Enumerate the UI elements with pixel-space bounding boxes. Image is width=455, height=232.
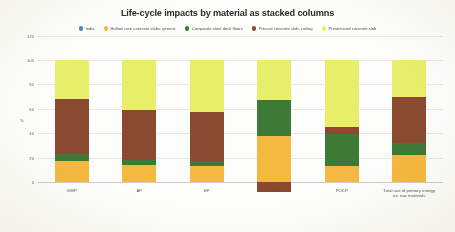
legend-dot-icon bbox=[79, 26, 84, 31]
legend-item-label: Composite steel deck floors bbox=[192, 26, 243, 31]
chart-title: Life-cycle impacts by material as stacke… bbox=[0, 8, 455, 18]
gridline bbox=[38, 109, 443, 110]
bar-segment[interactable] bbox=[190, 60, 224, 112]
legend-item-label: Hollow core concrete slabs, generic bbox=[111, 26, 176, 31]
chart-figure: Life-cycle impacts by material as stacke… bbox=[0, 0, 455, 232]
bar-segment[interactable] bbox=[392, 97, 426, 143]
legend-item[interactable]: India bbox=[79, 26, 95, 31]
y-axis-tick-label: 40 bbox=[29, 131, 34, 136]
gridline bbox=[38, 60, 443, 61]
bar-segment[interactable] bbox=[325, 127, 359, 134]
bar-column[interactable] bbox=[190, 44, 224, 182]
legend-item[interactable]: Precast concrete slab, ceiling bbox=[252, 26, 313, 31]
legend-dot-icon bbox=[185, 26, 190, 31]
bar-segment[interactable] bbox=[55, 60, 89, 99]
bar-segment[interactable] bbox=[55, 154, 89, 161]
legend-dot-icon bbox=[252, 26, 257, 31]
bar-segment[interactable] bbox=[122, 165, 156, 182]
legend-item[interactable]: Composite steel deck floors bbox=[185, 26, 243, 31]
bar-segment[interactable] bbox=[190, 161, 224, 166]
bar-segment[interactable] bbox=[392, 60, 426, 97]
bar-segment[interactable] bbox=[122, 60, 156, 110]
y-axis-tick-label: 20 bbox=[29, 155, 34, 160]
bar-column[interactable] bbox=[325, 44, 359, 182]
plot-area: 120100806040200GWPAPEPODPPOCPTotal use o… bbox=[38, 44, 443, 182]
legend-item[interactable]: Prestressed concrete slab bbox=[322, 26, 377, 31]
legend-item-label: Prestressed concrete slab bbox=[329, 26, 377, 31]
y-axis-tick-label: 0 bbox=[32, 180, 34, 185]
bar-segment[interactable] bbox=[325, 134, 359, 166]
bar-segment[interactable] bbox=[257, 136, 291, 182]
bar-segment[interactable] bbox=[122, 160, 156, 165]
bar-column[interactable] bbox=[257, 44, 291, 182]
bar-segment[interactable] bbox=[392, 143, 426, 155]
legend-item-label: India bbox=[86, 26, 95, 31]
gridline bbox=[38, 158, 443, 159]
axis-baseline bbox=[38, 182, 443, 183]
y-axis-label: % bbox=[20, 118, 24, 123]
legend-item[interactable]: Hollow core concrete slabs, generic bbox=[104, 26, 176, 31]
y-axis-tick-label: 60 bbox=[29, 106, 34, 111]
bar-column[interactable] bbox=[55, 44, 89, 182]
legend-dot-icon bbox=[104, 26, 109, 31]
gridline bbox=[38, 84, 443, 85]
bar-segment[interactable] bbox=[190, 166, 224, 182]
bar-segment[interactable] bbox=[122, 110, 156, 160]
legend-dot-icon bbox=[322, 26, 327, 31]
bar-segment[interactable] bbox=[392, 155, 426, 182]
bar-segment[interactable] bbox=[257, 100, 291, 135]
bar-segment[interactable] bbox=[257, 60, 291, 100]
bar-segment[interactable] bbox=[325, 166, 359, 182]
chart-legend: IndiaHollow core concrete slabs, generic… bbox=[0, 26, 455, 31]
bar-segment[interactable] bbox=[55, 99, 89, 154]
bar-segment[interactable] bbox=[325, 60, 359, 127]
gridline bbox=[38, 133, 443, 134]
gridline bbox=[38, 36, 443, 37]
bar-segment[interactable] bbox=[55, 161, 89, 182]
y-axis-tick-label: 100 bbox=[27, 58, 34, 63]
bar-column[interactable] bbox=[392, 44, 426, 182]
legend-item-label: Precast concrete slab, ceiling bbox=[259, 26, 313, 31]
y-axis-tick-label: 120 bbox=[27, 33, 34, 38]
y-axis-tick-label: 80 bbox=[29, 82, 34, 87]
bar-column[interactable] bbox=[122, 44, 156, 182]
x-axis-tick-label: Total use of primary energyex. raw mater… bbox=[349, 188, 455, 199]
bar-segment[interactable] bbox=[190, 112, 224, 161]
